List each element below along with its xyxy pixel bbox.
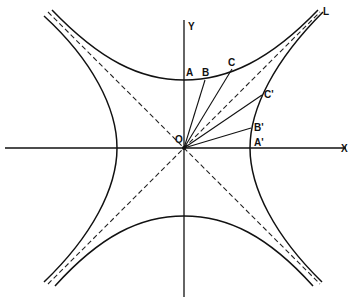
point-C-prime-label: C': [264, 89, 274, 100]
origin-label: O: [175, 134, 183, 145]
point-A-prime-label: A': [254, 137, 264, 148]
asymptote-label: L: [323, 6, 329, 17]
origin-point: [182, 146, 186, 150]
x-axis-label: X: [341, 143, 348, 154]
ray-OB: [184, 80, 205, 148]
y-axis-label: Y: [188, 21, 195, 32]
point-A-label: A: [186, 67, 193, 78]
upper-branch-curve: [52, 10, 318, 80]
point-B-prime-label: B': [254, 122, 264, 133]
point-C-label: C: [228, 57, 235, 68]
hyperbola-diagram: Y X O L A B C C' B' A': [0, 0, 352, 297]
point-B-label: B: [202, 67, 209, 78]
